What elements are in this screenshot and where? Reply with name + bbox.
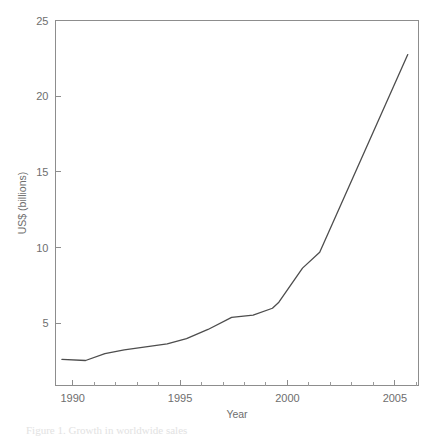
- y-tick-label: 25: [36, 15, 48, 27]
- figure-caption-strip: Figure 1. Growth in worldwide sales: [0, 424, 440, 439]
- y-axis-ticks: 510152025: [36, 15, 60, 330]
- y-tick-label: 20: [36, 90, 48, 102]
- y-tick-label: 5: [42, 317, 48, 329]
- y-axis-title: US$ (billions): [16, 172, 28, 234]
- x-axis-ticks: 1990199520002005: [60, 380, 416, 404]
- series-line-worldwide-sales: [62, 55, 408, 361]
- line-chart: 510152025 1990199520002005 Year US$ (bil…: [0, 0, 440, 439]
- plot-frame: [56, 21, 419, 386]
- x-tick-label: 1990: [60, 392, 84, 404]
- figure-container: 510152025 1990199520002005 Year US$ (bil…: [0, 0, 440, 439]
- y-tick-label: 15: [36, 166, 48, 178]
- x-tick-label: 2005: [383, 392, 407, 404]
- x-tick-label: 2000: [275, 392, 299, 404]
- x-tick-label: 1995: [168, 392, 192, 404]
- y-tick-label: 10: [36, 242, 48, 254]
- x-axis-title: Year: [226, 408, 248, 420]
- figure-caption-text: Figure 1. Growth in worldwide sales: [0, 424, 440, 437]
- series-group: [62, 55, 408, 361]
- plot-box-border: [56, 21, 419, 386]
